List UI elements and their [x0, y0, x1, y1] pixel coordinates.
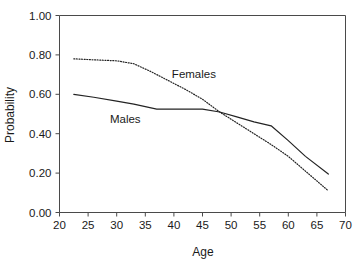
plot-frame	[60, 16, 346, 213]
x-tick-label: 20	[53, 219, 66, 231]
series-line-males	[74, 94, 329, 174]
series-label-females: Females	[172, 68, 216, 80]
series-annotations-layer: FemalesMales	[110, 68, 216, 125]
x-axis-ticks: 2025303540455055606570	[53, 213, 352, 231]
y-tick-label: 0.60	[29, 88, 51, 100]
series-label-males: Males	[110, 113, 141, 125]
x-tick-label: 60	[282, 219, 295, 231]
y-axis-ticks: 0.000.200.400.600.801.00	[29, 10, 59, 219]
x-tick-label: 25	[82, 219, 95, 231]
y-tick-label: 0.40	[29, 128, 51, 140]
x-tick-label: 30	[110, 219, 123, 231]
y-tick-label: 1.00	[29, 10, 51, 22]
y-tick-label: 0.80	[29, 49, 51, 61]
plot-border	[60, 16, 346, 213]
x-tick-label: 35	[139, 219, 152, 231]
probability-vs-age-line-chart: 2025303540455055606570 0.000.200.400.600…	[0, 0, 360, 264]
x-axis-title: Age	[192, 245, 214, 259]
x-tick-label: 45	[196, 219, 209, 231]
chart-figure: 2025303540455055606570 0.000.200.400.600…	[0, 0, 360, 264]
x-tick-label: 40	[168, 219, 181, 231]
y-tick-label: 0.20	[29, 167, 51, 179]
y-axis-title: Probability	[3, 87, 17, 143]
x-tick-label: 70	[339, 219, 352, 231]
x-tick-label: 50	[225, 219, 238, 231]
x-tick-label: 65	[311, 219, 324, 231]
x-tick-label: 55	[253, 219, 266, 231]
y-tick-label: 0.00	[29, 207, 51, 219]
